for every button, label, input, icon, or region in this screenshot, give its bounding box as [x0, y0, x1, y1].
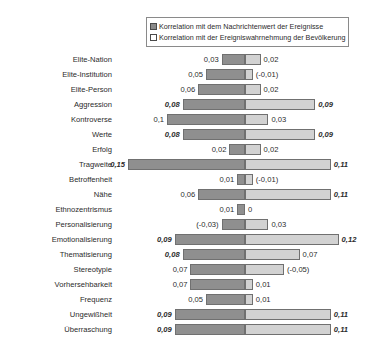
category-label: Personalisierung: [55, 217, 112, 232]
value-label-series-a: (-0,03): [196, 217, 218, 232]
value-label-series-b: 0,02: [264, 52, 279, 67]
category-label: Thematisierung: [60, 247, 112, 262]
category-label: Elite-Nation: [73, 52, 112, 67]
category-label: Nähe: [94, 187, 112, 202]
category-label: Vorhersehbarkeit: [55, 277, 112, 292]
bar-series-b: [245, 174, 253, 185]
value-label-series-a: 0,08: [165, 97, 180, 112]
bar-series-a: [175, 234, 245, 245]
category-label: Kontroverse: [71, 112, 112, 127]
value-label-series-b: 0,07: [303, 247, 318, 262]
value-label-series-a: 0,09: [157, 322, 172, 337]
value-label-series-a: 0,08: [165, 127, 180, 142]
bar-series-a: [237, 204, 245, 215]
bar-series-b: [245, 264, 284, 275]
legend-label-series-a: Korrelation mit dem Nachrichtenwert der …: [159, 22, 323, 31]
value-label-series-a: 0,02: [212, 142, 227, 157]
value-label-series-a: 0,07: [173, 277, 188, 292]
bar-series-a: [175, 309, 245, 320]
bar-series-b: [245, 54, 261, 65]
chart-row: Erfolg0,020,02: [0, 142, 380, 157]
chart-row: Betroffenheit0,01(-0,01): [0, 172, 380, 187]
bar-series-a: [183, 129, 245, 140]
bar-series-b: [245, 234, 339, 245]
chart-row: Werte0,080,09: [0, 127, 380, 142]
category-label: Elite-Institution: [62, 67, 112, 82]
bar-series-a: [128, 159, 245, 170]
category-label: Überraschung: [64, 322, 112, 337]
chart-row: Frequenz0,050,01: [0, 292, 380, 307]
bar-series-b: [245, 309, 331, 320]
value-label-series-a: 0,08: [165, 247, 180, 262]
value-label-series-b: 0,03: [271, 112, 286, 127]
category-label: Tragweite: [79, 157, 112, 172]
value-label-series-b: 0,09: [318, 97, 333, 112]
bar-series-b: [245, 69, 253, 80]
chart-row: Ungewißheit0,090,11: [0, 307, 380, 322]
chart-row: Kontroverse0,10,03: [0, 112, 380, 127]
diverging-bar-chart: Elite-Nation0,030,02Elite-Institution0,0…: [0, 52, 380, 337]
value-label-series-a: 0,05: [188, 292, 203, 307]
value-label-series-a: 0,1: [153, 112, 164, 127]
legend-swatch-series-b: [150, 34, 157, 41]
value-label-series-b: 0,11: [334, 322, 348, 337]
value-label-series-b: 0: [248, 202, 252, 217]
bar-series-b: [245, 279, 253, 290]
bar-series-a: [175, 324, 245, 335]
value-label-series-b: 0,02: [264, 142, 279, 157]
bar-series-a: [183, 249, 245, 260]
bar-series-b: [245, 219, 268, 230]
value-label-series-b: 0,01: [256, 292, 271, 307]
value-label-series-b: 0,11: [334, 307, 348, 322]
chart-row: Ethnozentrismus0,010: [0, 202, 380, 217]
bar-series-b: [245, 249, 300, 260]
bar-series-b: [245, 84, 261, 95]
bar-series-a: [198, 84, 245, 95]
value-label-series-a: 0,03: [204, 52, 219, 67]
bar-series-b: [245, 189, 331, 200]
bar-series-a: [206, 294, 245, 305]
value-label-series-b: 0,01: [256, 277, 271, 292]
category-label: Ungewißheit: [70, 307, 112, 322]
value-label-series-a: 0,06: [180, 82, 195, 97]
bar-series-b: [245, 129, 315, 140]
bar-series-b: [245, 294, 253, 305]
value-label-series-a: 0,05: [188, 67, 203, 82]
value-label-series-b: (-0,01): [256, 67, 278, 82]
chart-row: Elite-Institution0,05(-0,01): [0, 67, 380, 82]
chart-row: Aggression0,080,09: [0, 97, 380, 112]
bar-series-a: [237, 174, 245, 185]
category-label: Betroffenheit: [69, 172, 112, 187]
category-label: Aggression: [74, 97, 112, 112]
bar-series-b: [245, 114, 268, 125]
bar-series-a: [167, 114, 245, 125]
value-label-series-a: 0,09: [157, 232, 172, 247]
chart-row: Thematisierung0,080,07: [0, 247, 380, 262]
bar-series-a: [198, 189, 245, 200]
chart-row: Stereotypie0,07(-0,05): [0, 262, 380, 277]
chart-row: Personalisierung(-0,03)0,03: [0, 217, 380, 232]
chart-row: Vorhersehbarkeit0,070,01: [0, 277, 380, 292]
value-label-series-a: 0,06: [180, 187, 195, 202]
value-label-series-b: (-0,01): [256, 172, 278, 187]
chart-row: Überraschung0,090,11: [0, 322, 380, 337]
category-label: Emotionalisierung: [52, 232, 112, 247]
legend-label-series-b: Korrelation mit der Ereigniswahrnehmung …: [159, 33, 346, 42]
chart-legend: Korrelation mit dem Nachrichtenwert der …: [146, 17, 349, 47]
legend-swatch-series-a: [150, 23, 157, 30]
chart-row: Nähe0,060,11: [0, 187, 380, 202]
bar-series-a: [229, 144, 245, 155]
bar-series-a: [206, 69, 245, 80]
bar-series-a: [190, 279, 245, 290]
bar-series-b: [245, 99, 315, 110]
category-label: Erfolg: [92, 142, 112, 157]
bar-series-a: [222, 219, 245, 230]
category-label: Ethnozentrismus: [55, 202, 112, 217]
bar-series-b: [245, 144, 261, 155]
value-label-series-b: (-0,05): [287, 262, 309, 277]
chart-row: Elite-Person0,060,02: [0, 82, 380, 97]
bar-series-b: [245, 159, 331, 170]
value-label-series-a: 0,01: [219, 172, 234, 187]
category-label: Elite-Person: [71, 82, 112, 97]
value-label-series-b: 0,09: [318, 127, 333, 142]
